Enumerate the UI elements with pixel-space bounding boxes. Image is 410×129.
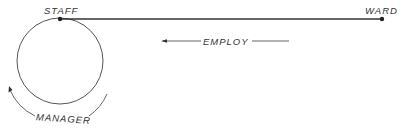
staff-label: STAFF [44, 5, 79, 16]
manager-arc-right [89, 94, 107, 116]
staff-node[interactable] [58, 17, 62, 21]
manager-arc-left [10, 90, 35, 116]
employ-label: EMPLOY [203, 36, 249, 47]
manager-label: MANAGER [36, 111, 92, 126]
diagram-canvas: STAFF WARD EMPLOY MANAGER [0, 0, 410, 129]
ward-node[interactable] [380, 17, 384, 21]
employ-arrowhead-icon [161, 39, 167, 42]
manager-loop [17, 18, 103, 104]
ward-label: WARD [365, 5, 398, 16]
